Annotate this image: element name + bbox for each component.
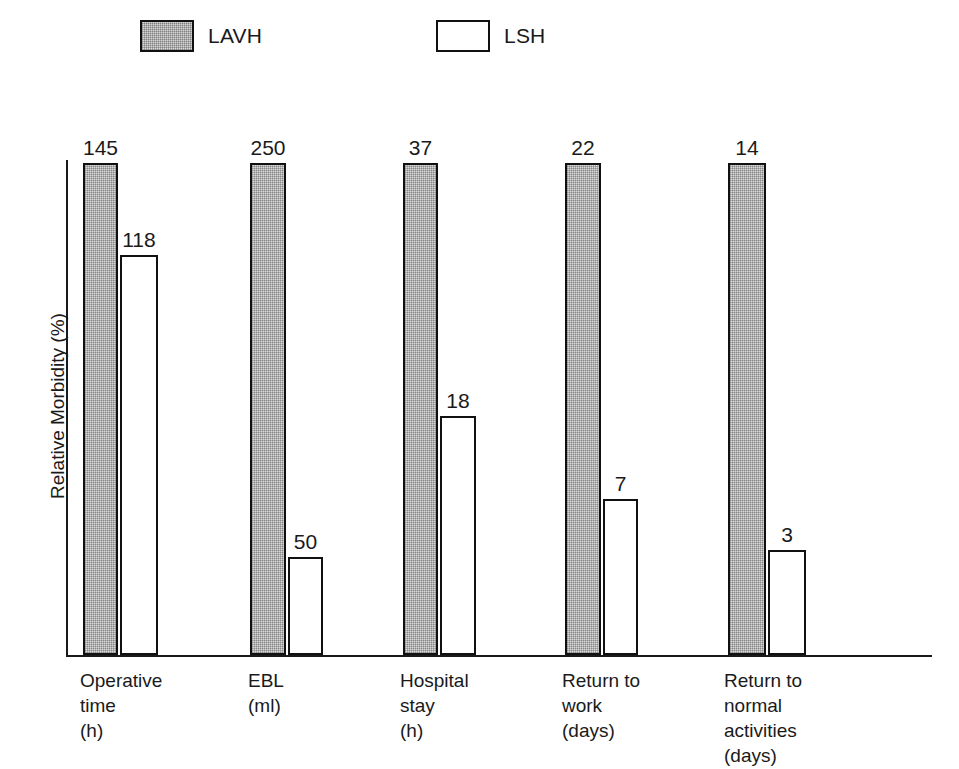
bar-value-lsh-3: 7 — [589, 472, 652, 496]
bar-lsh-2 — [440, 416, 476, 655]
bar-value-lavh-3: 22 — [551, 136, 615, 160]
bar-lsh-0 — [120, 255, 158, 655]
bar-value-lsh-1: 50 — [274, 530, 337, 554]
plot-area: 145250372214118501873 — [0, 0, 959, 769]
bar-value-lsh-0: 118 — [106, 228, 172, 252]
bar-value-lsh-4: 3 — [754, 523, 820, 547]
category-label-0: Operative time (h) — [80, 668, 162, 743]
category-label-4: Return to normal activities (days) — [724, 668, 802, 768]
bar-lsh-1 — [288, 557, 323, 655]
category-label-3: Return to work (days) — [562, 668, 640, 743]
bar-value-lavh-1: 250 — [236, 136, 300, 160]
bar-lavh-1 — [250, 163, 286, 655]
category-label-2: Hospital stay (h) — [400, 668, 469, 743]
bar-value-lavh-2: 37 — [389, 136, 452, 160]
category-label-1: EBL (ml) — [248, 668, 284, 718]
bar-lsh-4 — [768, 550, 806, 655]
bar-lsh-3 — [603, 499, 638, 655]
bar-lavh-3 — [565, 163, 601, 655]
bar-lavh-4 — [728, 163, 766, 655]
bar-chart-figure: LAVH LSH Relative Morbidity (%) 14525037… — [0, 0, 959, 769]
bar-value-lavh-4: 14 — [714, 136, 780, 160]
bar-value-lsh-2: 18 — [426, 389, 490, 413]
bar-value-lavh-0: 145 — [69, 136, 132, 160]
